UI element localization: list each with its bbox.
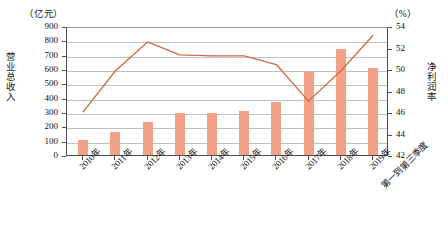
left-axis-tick: 400 <box>32 93 58 103</box>
left-axis-tick: 500 <box>32 78 58 88</box>
line-series <box>67 28 389 157</box>
left-axis-tick: 900 <box>32 21 58 31</box>
left-axis-tickmark <box>62 156 66 157</box>
right-axis-tick: 46 <box>396 107 412 117</box>
right-axis-unit-label: （%） <box>389 6 416 20</box>
right-axis-title: 净利润率 <box>424 62 438 102</box>
plot-area <box>66 27 388 156</box>
right-axis-tick: 52 <box>396 43 412 53</box>
left-axis-tick: 0 <box>32 150 58 160</box>
left-axis-tick: 100 <box>32 136 58 146</box>
right-axis-tick: 48 <box>396 86 412 96</box>
left-axis-tick: 800 <box>32 35 58 45</box>
left-axis-tick: 600 <box>32 64 58 74</box>
right-axis-tick: 50 <box>396 64 412 74</box>
left-axis-tick: 200 <box>32 121 58 131</box>
left-axis-title: 营业总收入 <box>3 52 17 102</box>
chart-container: （亿元） （%） 营业总收入 净利润率 01002003004005006007… <box>0 0 448 244</box>
left-axis-tick: 700 <box>32 50 58 60</box>
right-axis-tick: 44 <box>396 129 412 139</box>
right-axis-tick: 54 <box>396 21 412 31</box>
left-axis-unit-label: （亿元） <box>24 6 63 20</box>
left-axis-tick: 300 <box>32 107 58 117</box>
